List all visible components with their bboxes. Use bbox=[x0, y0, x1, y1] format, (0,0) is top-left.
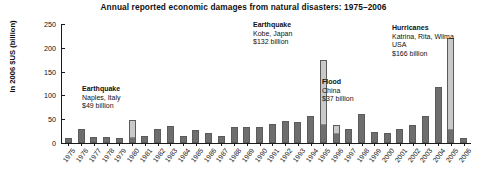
annotation-hurricanes: HurricanesKatrina, Rita, WilmaUSA$166 bi… bbox=[392, 24, 454, 58]
annotation-location: China bbox=[322, 87, 354, 96]
bar bbox=[231, 127, 238, 143]
x-tick bbox=[285, 143, 286, 146]
x-axis-line bbox=[61, 143, 471, 144]
annotation-amount: $166 billion bbox=[392, 50, 454, 59]
y-tick-label: 0 bbox=[30, 139, 56, 148]
x-tick bbox=[107, 143, 108, 146]
y-tick-label: 50 bbox=[30, 115, 56, 124]
x-tick bbox=[413, 143, 414, 146]
x-tick bbox=[311, 143, 312, 146]
chart-title: Annual reported economic damages from na… bbox=[0, 2, 487, 12]
x-tick bbox=[209, 143, 210, 146]
bar bbox=[384, 133, 391, 143]
x-tick bbox=[81, 143, 82, 146]
x-tick bbox=[323, 143, 324, 146]
bar bbox=[192, 130, 199, 143]
bar bbox=[409, 125, 416, 143]
x-tick-label: 2006 bbox=[457, 147, 472, 164]
x-tick bbox=[387, 143, 388, 146]
x-tick bbox=[247, 143, 248, 146]
annotation-china-flood: FloodChina$37 billion bbox=[322, 78, 354, 104]
annotation-location2: USA bbox=[392, 41, 454, 50]
y-axis-label: In 2006 $US (billion) bbox=[8, 2, 17, 112]
x-tick-label: 2005 bbox=[444, 147, 459, 164]
annotation-naples: EarthquakeNaples, Italy$49 billion bbox=[82, 85, 121, 111]
x-tick-label: 1980 bbox=[126, 147, 141, 164]
x-tick bbox=[68, 143, 69, 146]
x-tick-label: 2001 bbox=[393, 147, 408, 164]
x-tick-label: 1997 bbox=[342, 147, 357, 164]
bar bbox=[256, 127, 263, 143]
annotation-event: Hurricanes bbox=[392, 24, 454, 33]
annotation-amount: $37 billion bbox=[322, 95, 354, 104]
annotation-event: Flood bbox=[322, 78, 354, 87]
annotation-event: Earthquake bbox=[253, 21, 292, 30]
x-tick-label: 1998 bbox=[355, 147, 370, 164]
x-tick bbox=[362, 143, 363, 146]
annotation-kobe: EarthquakeKobe, Japan$132 billion bbox=[253, 21, 292, 47]
x-tick bbox=[145, 143, 146, 146]
x-tick bbox=[464, 143, 465, 146]
x-tick bbox=[272, 143, 273, 146]
bar bbox=[78, 129, 85, 143]
bar bbox=[422, 116, 429, 143]
annotation-location: Naples, Italy bbox=[82, 94, 121, 103]
y-tick-label: 150 bbox=[30, 68, 56, 77]
x-tick bbox=[260, 143, 261, 146]
bar bbox=[269, 124, 276, 143]
x-tick bbox=[119, 143, 120, 146]
x-tick bbox=[425, 143, 426, 146]
bar bbox=[307, 116, 314, 143]
bar-highlight-segment bbox=[334, 126, 339, 134]
x-tick-label: 1988 bbox=[228, 147, 243, 164]
bar-highlight-segment bbox=[130, 121, 135, 139]
bar bbox=[180, 136, 187, 143]
x-tick bbox=[221, 143, 222, 146]
x-tick-label: 1984 bbox=[177, 147, 192, 164]
x-tick bbox=[349, 143, 350, 146]
bar bbox=[435, 87, 442, 143]
bar bbox=[282, 121, 289, 143]
x-tick bbox=[451, 143, 452, 146]
y-tick bbox=[61, 143, 65, 144]
chart-container: Annual reported economic damages from na… bbox=[0, 0, 487, 184]
x-tick-label: 1985 bbox=[189, 147, 204, 164]
bar bbox=[129, 120, 136, 143]
bar bbox=[205, 133, 212, 143]
x-tick-label: 1977 bbox=[87, 147, 102, 164]
bar bbox=[294, 122, 301, 143]
bar bbox=[358, 114, 365, 144]
bar bbox=[371, 132, 378, 143]
bar bbox=[154, 129, 161, 143]
bar bbox=[218, 136, 225, 143]
x-tick-label: 1976 bbox=[75, 147, 90, 164]
x-tick bbox=[234, 143, 235, 146]
annotation-event: Earthquake bbox=[82, 85, 121, 94]
annotation-location: Katrina, Rita, Wilma bbox=[392, 33, 454, 42]
x-tick-label: 1978 bbox=[100, 147, 115, 164]
annotation-amount: $132 billion bbox=[253, 38, 292, 47]
x-tick-label: 1975 bbox=[62, 147, 77, 164]
x-tick bbox=[196, 143, 197, 146]
x-tick bbox=[94, 143, 95, 146]
x-tick bbox=[400, 143, 401, 146]
y-tick-label: 250 bbox=[30, 20, 56, 29]
x-tick-label: 1996 bbox=[330, 147, 345, 164]
x-tick-label: 2004 bbox=[432, 147, 447, 164]
x-tick-label: 1994 bbox=[304, 147, 319, 164]
bar bbox=[167, 126, 174, 143]
x-tick bbox=[336, 143, 337, 146]
x-tick-label: 1989 bbox=[240, 147, 255, 164]
x-tick-label: 1986 bbox=[202, 147, 217, 164]
y-tick-label: 100 bbox=[30, 91, 56, 100]
x-tick-label: 1981 bbox=[138, 147, 153, 164]
x-tick bbox=[298, 143, 299, 146]
x-tick-label: 2000 bbox=[381, 147, 396, 164]
bar bbox=[345, 129, 352, 143]
bar bbox=[243, 127, 250, 143]
y-tick-label: 200 bbox=[30, 44, 56, 53]
bar bbox=[333, 125, 340, 143]
x-tick bbox=[132, 143, 133, 146]
bar bbox=[396, 129, 403, 143]
x-tick bbox=[158, 143, 159, 146]
